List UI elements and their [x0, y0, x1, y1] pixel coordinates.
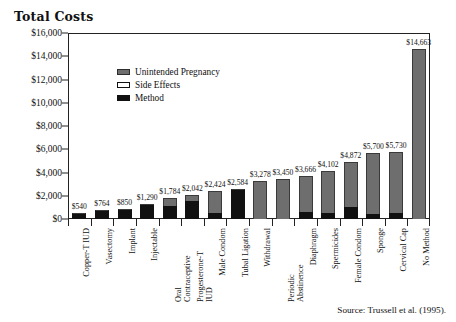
legend-label: Side Effects [135, 80, 180, 90]
x-axis-label: Spermicides [331, 228, 340, 269]
bar-slot[interactable]: $5,700 [362, 33, 385, 219]
bar-stack[interactable] [208, 191, 222, 219]
bar-slot[interactable]: $1,290 [136, 33, 159, 219]
y-tick-label: $14,000 [31, 51, 62, 61]
bar-stack[interactable] [140, 204, 154, 219]
bar-value-label: $3,450 [272, 168, 293, 177]
legend-swatch-icon [117, 95, 130, 101]
bar-segment [299, 176, 313, 211]
bar-value-label: $2,042 [182, 184, 203, 193]
legend-swatch-icon [117, 82, 130, 88]
x-tick-mark [317, 219, 318, 226]
x-axis-labels: Copper-T IUDVasectomyImplantInjectableOr… [68, 228, 430, 306]
x-axis-label: Cervical Cap [399, 228, 408, 272]
legend-item[interactable]: Method [117, 92, 220, 103]
legend-label: Unintended Pregnancy [135, 67, 220, 77]
bar-stack[interactable] [253, 181, 267, 219]
bar-stack[interactable] [299, 176, 313, 219]
bar-value-label: $3,666 [295, 165, 316, 174]
bar-value-label: $2,424 [205, 180, 226, 189]
bar-stack[interactable] [366, 153, 380, 219]
bar-segment [389, 152, 403, 213]
bars-layer: $540$764$850$1,290$1,784$2,042$2,424$2,5… [68, 33, 430, 219]
bar-stack[interactable] [95, 210, 109, 219]
x-tick-mark [226, 219, 227, 226]
bar-value-label: $3,278 [250, 170, 271, 179]
y-tick-label: $2,000 [36, 191, 62, 201]
bar-segment [276, 179, 290, 219]
y-tick-label: $16,000 [31, 28, 62, 38]
bar-value-label: $4,102 [318, 160, 339, 169]
bar-segment [208, 191, 222, 213]
bar-value-label: $5,730 [386, 141, 407, 150]
x-axis-label: Female Condom [354, 228, 363, 283]
bar-segment [118, 209, 132, 219]
x-tick-mark [91, 219, 92, 226]
bar-stack[interactable] [231, 189, 245, 219]
bar-slot[interactable]: $2,424 [204, 33, 227, 219]
x-tick-mark [407, 219, 408, 226]
bar-stack[interactable] [389, 152, 403, 219]
chart-figure: Total Costs $16,000$14,000$12,000$10,000… [0, 0, 456, 322]
bar-stack[interactable] [276, 179, 290, 219]
bar-segment [344, 207, 358, 219]
bar-stack[interactable] [185, 195, 199, 219]
bar-slot[interactable]: $14,663 [407, 33, 430, 219]
x-axis-label: Implant [128, 228, 137, 254]
bar-slot[interactable]: $5,730 [385, 33, 408, 219]
x-axis-label: No Method [422, 228, 431, 266]
bar-stack[interactable] [118, 209, 132, 219]
bar-slot[interactable]: $3,278 [249, 33, 272, 219]
bar-segment [95, 210, 109, 219]
x-axis-label: Tubal Ligation [241, 228, 250, 277]
x-tick-mark [136, 219, 137, 226]
x-axis-label: Male Condom [218, 228, 227, 276]
x-tick-mark [340, 219, 341, 226]
bar-segment [412, 49, 426, 219]
legend-item[interactable]: Side Effects [117, 79, 220, 90]
bar-segment [344, 162, 358, 206]
bar-value-label: $5,700 [363, 142, 384, 151]
bar-segment [366, 153, 380, 214]
bar-slot[interactable]: $540 [68, 33, 91, 219]
x-axis-label: Copper-T IUD [82, 228, 91, 277]
x-axis-label: OralContraceptive [174, 228, 192, 302]
x-axis-ticks [68, 219, 430, 226]
y-tick-label: $8,000 [36, 121, 62, 131]
bar-slot[interactable]: $1,784 [159, 33, 182, 219]
bar-segment [163, 206, 177, 219]
bar-value-label: $764 [94, 199, 109, 208]
bar-stack[interactable] [412, 49, 426, 219]
x-axis-label: Vasectomy [105, 228, 114, 264]
bar-slot[interactable]: $2,042 [181, 33, 204, 219]
bar-slot[interactable]: $3,666 [294, 33, 317, 219]
x-axis-label: PeriodicAbstinence [287, 228, 305, 302]
bar-slot[interactable]: $3,450 [272, 33, 295, 219]
bar-segment [253, 181, 267, 219]
legend-label: Method [135, 93, 164, 103]
bar-stack[interactable] [344, 162, 358, 219]
bar-slot[interactable]: $4,102 [317, 33, 340, 219]
bar-value-label: $540 [72, 202, 87, 211]
x-axis-label: Withdrawal [263, 228, 272, 267]
x-axis-label: Diaphragm [309, 228, 318, 265]
bar-slot[interactable]: $764 [91, 33, 114, 219]
bar-segment [231, 189, 245, 219]
bar-value-label: $1,290 [137, 193, 158, 202]
bar-value-label: $1,784 [159, 187, 180, 196]
bar-slot[interactable]: $850 [113, 33, 136, 219]
x-tick-mark [385, 219, 386, 226]
bar-value-label: $850 [117, 198, 132, 207]
y-tick-label: $4,000 [36, 168, 62, 178]
x-tick-mark [204, 219, 205, 226]
x-tick-mark [249, 219, 250, 226]
bar-stack[interactable] [163, 198, 177, 219]
x-tick-mark [272, 219, 273, 226]
bar-segment [321, 171, 335, 213]
x-tick-mark [429, 219, 430, 226]
legend-item[interactable]: Unintended Pregnancy [117, 66, 220, 77]
x-tick-mark [159, 219, 160, 226]
bar-stack[interactable] [321, 171, 335, 219]
bar-slot[interactable]: $2,584 [226, 33, 249, 219]
bar-slot[interactable]: $4,872 [340, 33, 363, 219]
